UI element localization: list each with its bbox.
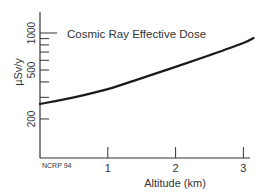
dose-curve [40,38,254,104]
y-tick-label: 200 [26,110,37,127]
x-tick-label: 1 [105,162,111,174]
x-tick-label: 3 [240,162,246,174]
x-ticks: 123 [105,147,247,174]
y-axis-label: µSv/y [12,58,24,86]
y-tick-label: 1000 [26,21,37,44]
x-tick-label: 2 [173,162,179,174]
cosmic-ray-dose-chart: 2005001000 123 Cosmic Ray Effective Dose… [0,0,265,196]
y-tick-label: 500 [26,61,37,78]
y-ticks: 2005001000 [26,21,57,127]
source-note: NCRP 94 [42,162,72,169]
chart-title: Cosmic Ray Effective Dose [67,28,206,40]
x-axis-label: Altitude (km) [144,177,206,189]
